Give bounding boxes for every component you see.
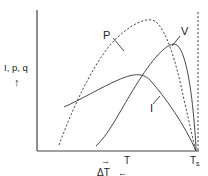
curve-i bbox=[64, 75, 196, 151]
ts-label: Ts bbox=[190, 155, 200, 167]
label-v: V bbox=[181, 25, 189, 37]
x-axis-label-t: T bbox=[124, 155, 130, 166]
curve-v bbox=[96, 44, 196, 151]
x-t-arrow-icon: → bbox=[101, 156, 110, 166]
x-axis-label-delta-t: ΔT bbox=[97, 167, 110, 176]
y-axis-label: I, p, q bbox=[4, 62, 28, 73]
label-i: I bbox=[150, 102, 153, 114]
i-leader bbox=[153, 96, 160, 104]
y-axis-arrow-icon: ↑ bbox=[14, 76, 20, 88]
curve-p bbox=[59, 20, 196, 151]
diagram-canvas: P V I I, p, q ↑ → T ΔT ← Ts bbox=[0, 0, 208, 176]
label-p: P bbox=[103, 29, 110, 41]
p-leader bbox=[113, 38, 124, 51]
x-dt-arrow-icon: ← bbox=[118, 168, 127, 176]
